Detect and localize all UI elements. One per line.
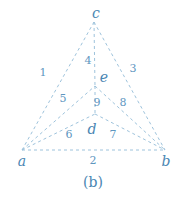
edge-c-b (94, 22, 165, 150)
edge-label-7: 7 (110, 128, 117, 141)
edge-label-3: 3 (130, 62, 137, 75)
edge-a-c (22, 22, 94, 150)
edge-label-9: 9 (94, 96, 101, 109)
edge-label-1: 1 (40, 66, 47, 79)
edge-c-e (94, 22, 95, 86)
edge-d-b (95, 114, 165, 150)
vertex-label-a: a (18, 153, 26, 169)
edge-e-b (95, 86, 165, 150)
figure-caption: (b) (83, 174, 103, 190)
vertex-label-b: b (162, 153, 171, 169)
edge-label-2: 2 (90, 154, 97, 167)
edge-label-8: 8 (120, 96, 127, 109)
edge-a-e (22, 86, 95, 150)
edge-label-5: 5 (60, 92, 67, 105)
edge-a-d (22, 114, 95, 150)
vertex-label-e: e (100, 69, 108, 85)
edge-label-4: 4 (85, 54, 92, 67)
vertex-label-c: c (92, 5, 100, 21)
vertex-label-d: d (88, 121, 97, 137)
edge-label-6: 6 (66, 128, 73, 141)
graph-diagram: 123456789 cedab (b) (0, 0, 193, 212)
